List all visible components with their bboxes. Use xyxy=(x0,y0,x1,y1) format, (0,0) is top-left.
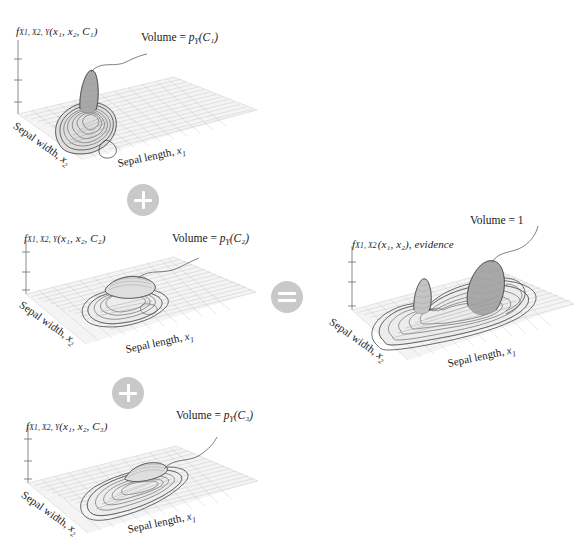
operator-plus-1 xyxy=(127,184,159,216)
surface-plot-class-2 xyxy=(6,226,266,384)
volume-annotation-class-3: Volume = pY(C₃) xyxy=(176,409,253,424)
density-label-class-2: fX1, X2, Y(x₁, x₂, C₂) xyxy=(24,232,105,244)
vertical-axis-class-1 xyxy=(14,40,22,114)
density-label-class-3: fX1, X2, Y(x₁, x₂, C₃) xyxy=(26,420,107,432)
density-label-evidence: fX1, X2 (x₁, x₂), evidence xyxy=(352,238,454,250)
vertical-axis-evidence xyxy=(348,246,356,310)
density-peak-class-1 xyxy=(80,70,98,113)
operator-equals xyxy=(271,281,303,313)
panel-class-2 xyxy=(6,226,266,384)
volume-annotation-class-2: Volume = pY(C₂) xyxy=(172,232,249,247)
vertical-axis-class-3 xyxy=(24,427,32,483)
volume-annotation-evidence: Volume = 1 xyxy=(470,214,524,226)
volume-annotation-class-1: Volume = pY(C₁) xyxy=(141,31,218,46)
vertical-axis-class-2 xyxy=(22,240,30,294)
leader-line-class-1 xyxy=(91,54,147,72)
density-label-class-1: fX1, X2, Y(x₁, x₂, C₁) xyxy=(16,25,97,37)
leader-line-evidence xyxy=(492,226,538,262)
